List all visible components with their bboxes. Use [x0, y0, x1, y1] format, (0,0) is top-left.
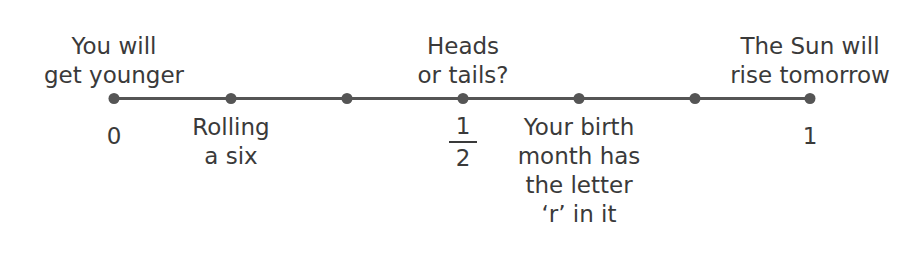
label-rolling-six: Rolling a six — [192, 113, 269, 171]
label-birth-month: Your birth month has the letter ‘r’ in i… — [518, 113, 641, 229]
point-4 — [574, 93, 585, 104]
label-heads-or-tails: Heads or tails? — [418, 32, 509, 90]
label-get-younger: You will get younger — [44, 32, 184, 90]
point-1 — [226, 93, 237, 104]
point-2 — [342, 93, 353, 104]
point-0 — [109, 93, 120, 104]
point-6 — [805, 93, 816, 104]
point-5 — [690, 93, 701, 104]
label-zero: 0 — [107, 122, 122, 151]
point-3 — [458, 93, 469, 104]
label-one: 1 — [803, 122, 818, 151]
label-one-half: 1 2 — [449, 112, 477, 172]
label-sun-will-rise: The Sun will rise tomorrow — [730, 32, 890, 90]
fraction-bar — [449, 141, 477, 143]
